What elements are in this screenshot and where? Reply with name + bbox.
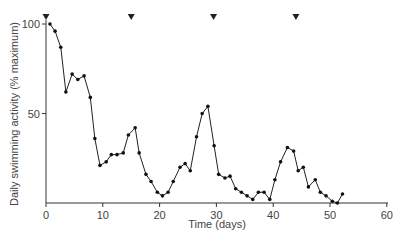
data-point [133,126,137,130]
activity-line [50,24,343,203]
data-point [341,192,345,196]
data-point [183,162,187,166]
axes [46,20,388,203]
data-point [89,96,93,100]
data-point [279,160,283,164]
x-tick-label: 20 [153,209,165,221]
data-point [121,151,125,155]
data-point [262,190,266,194]
data-point [149,180,153,184]
x-tick-label: 60 [381,209,393,221]
data-point [178,165,182,169]
triangle-marker-icon [43,14,50,20]
data-point [115,153,119,157]
data-point [48,22,52,26]
data-point [53,29,57,33]
data-point [64,90,68,94]
triangle-marker-icon [292,14,299,20]
data-point [127,133,131,137]
data-point [104,160,108,164]
data-point [228,174,232,178]
data-point [319,190,323,194]
event-markers [43,14,300,20]
data-point [206,105,210,109]
data-point [223,176,227,180]
data-point [234,187,238,191]
data-point [156,190,160,194]
data-point [93,137,97,141]
data-point [251,198,255,202]
data-point [307,185,311,189]
data-point [273,178,277,182]
data-point [171,180,175,184]
data-point [324,194,328,198]
data-point [188,169,192,173]
data-point [70,72,74,76]
y-tick-label: 50 [28,108,40,120]
data-point [240,190,244,194]
data-point [286,146,290,150]
data-point [59,45,63,49]
y-tick-label: 100 [22,18,40,30]
data-point [98,164,102,168]
x-tick-label: 40 [267,209,279,221]
data-point [110,153,114,157]
x-tick-label: 50 [324,209,336,221]
data-point [161,194,165,198]
data-point [336,201,340,205]
data-point [195,135,199,139]
data-points [48,22,344,205]
data-point [166,190,170,194]
data-point [296,169,300,173]
x-axis-label: Time (days) [188,218,246,230]
data-point [200,112,204,116]
data-point [76,78,80,82]
data-point [268,198,272,202]
data-point [82,74,86,78]
data-point [245,194,249,198]
chart: 0102030405060 50100 Time (days) Daily sw… [0,0,401,240]
data-point [217,173,221,177]
data-point [302,165,306,169]
data-point [257,190,261,194]
data-point [144,173,148,177]
triangle-marker-icon [210,14,217,20]
data-point [330,199,334,203]
y-axis-label: Daily swimming activity (% maximum) [8,22,20,206]
data-point [137,151,141,155]
data-point [212,144,216,148]
x-tick-label: 0 [43,209,49,221]
data-point [292,149,296,153]
data-point [313,178,317,182]
triangle-marker-icon [128,14,135,20]
x-tick-label: 10 [97,209,109,221]
